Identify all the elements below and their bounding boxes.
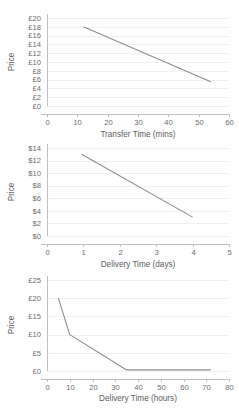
y-axis-tick-label: £16: [28, 31, 41, 40]
y-axis-tick-label: $8: [33, 181, 41, 190]
y-axis-tick-label: £4: [33, 84, 41, 93]
x-axis-tick-label: 30: [134, 118, 142, 127]
y-axis-tick-label: $10: [28, 169, 41, 178]
y-axis-tick-label: £20: [28, 294, 41, 303]
y-axis-tick-label: £6: [33, 75, 41, 84]
y-axis-tick-label: £8: [33, 67, 41, 76]
y-axis-tick-label: £10: [28, 330, 41, 339]
y-axis-tick-label: £0: [33, 367, 41, 376]
x-axis-tick-label: 40: [134, 383, 142, 392]
y-axis-tick-label: £10: [28, 58, 41, 67]
x-axis-tick-label: 0: [45, 248, 49, 257]
x-axis-tick-label: 4: [191, 248, 195, 257]
chart-page: £0£2£4£6£8£10£12£14£16£18£20Price0102030…: [0, 0, 239, 409]
y-axis-tick-label: $12: [28, 156, 41, 165]
x-axis-tick-label: 50: [157, 383, 165, 392]
y-axis-tick-label: £25: [28, 276, 41, 285]
y-axis-tick-label: $4: [33, 207, 41, 216]
x-axis-tick-label: 80: [225, 383, 233, 392]
y-axis-tick-label: £5: [33, 349, 41, 358]
y-axis-tick-label: £15: [28, 312, 41, 321]
x-axis-tick-label: 0: [45, 383, 49, 392]
x-axis-tick-label: 2: [118, 248, 122, 257]
chart-canvas-transfer-time: £0£2£4£6£8£10£12£14£16£18£20Price0102030…: [0, 10, 239, 142]
y-axis-title: Price: [7, 315, 16, 334]
x-axis-title: Transfer Time (mins): [100, 130, 175, 139]
y-axis-tick-label: £2: [33, 93, 41, 102]
x-axis-tick-label: 20: [89, 383, 97, 392]
series-line: [83, 27, 210, 82]
x-axis-tick-label: 10: [73, 118, 81, 127]
y-axis-tick-label: $6: [33, 194, 41, 203]
chart-delivery-time-days-price: $0$2$4$6$8$10$12$14Price012345Delivery T…: [0, 140, 239, 272]
x-axis-tick-label: 20: [104, 118, 112, 127]
y-axis-tick-label: $2: [33, 219, 41, 228]
y-axis-tick-label: £20: [28, 14, 41, 23]
x-axis-tick-label: 50: [195, 118, 203, 127]
y-axis-tick-label: £14: [28, 40, 41, 49]
series-line: [82, 154, 193, 217]
chart-delivery-time-hours-price: £0£5£10£15£20£25Price01020304050607080De…: [0, 272, 239, 407]
x-axis-tick-label: 3: [154, 248, 158, 257]
y-axis-tick-label: £12: [28, 49, 41, 58]
x-axis-title: Delivery Time (hours): [99, 394, 177, 403]
x-axis-tick-label: 60: [180, 383, 188, 392]
x-axis-title: Delivery Time (days): [101, 260, 176, 269]
y-axis-tick-label: £18: [28, 23, 41, 32]
x-axis-tick-label: 5: [227, 248, 231, 257]
y-axis-title: Price: [7, 52, 16, 71]
chart-canvas-delivery-hours: £0£5£10£15£20£25Price01020304050607080De…: [0, 272, 239, 407]
clipped-header-text: [28, 0, 228, 4]
x-axis-tick-label: 60: [225, 118, 233, 127]
y-axis-tick-label: $0: [33, 232, 41, 241]
y-axis-title: Price: [7, 182, 16, 201]
x-axis-tick-label: 40: [164, 118, 172, 127]
chart-transfer-time-price: £0£2£4£6£8£10£12£14£16£18£20Price0102030…: [0, 10, 239, 142]
x-axis-tick-label: 70: [202, 383, 210, 392]
y-axis-tick-label: £0: [33, 102, 41, 111]
x-axis-tick-label: 1: [81, 248, 85, 257]
series-line: [58, 298, 210, 370]
x-axis-tick-label: 0: [45, 118, 49, 127]
y-axis-tick-label: $14: [28, 144, 41, 153]
x-axis-tick-label: 10: [66, 383, 74, 392]
x-axis-tick-label: 30: [111, 383, 119, 392]
chart-canvas-delivery-days: $0$2$4$6$8$10$12$14Price012345Delivery T…: [0, 140, 239, 272]
